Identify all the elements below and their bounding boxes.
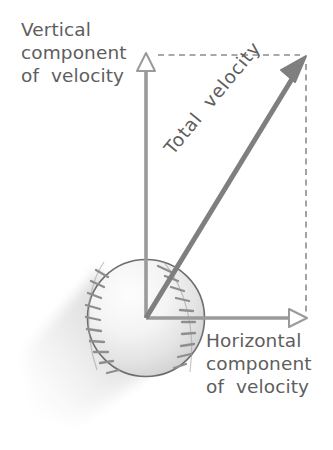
velocity-components-diagram: Vertical component of velocity Horizonta… — [0, 0, 333, 450]
horizontal-component-label: Horizontal component of velocity — [206, 329, 312, 398]
vertical-component-label: Vertical component of velocity — [21, 18, 127, 87]
